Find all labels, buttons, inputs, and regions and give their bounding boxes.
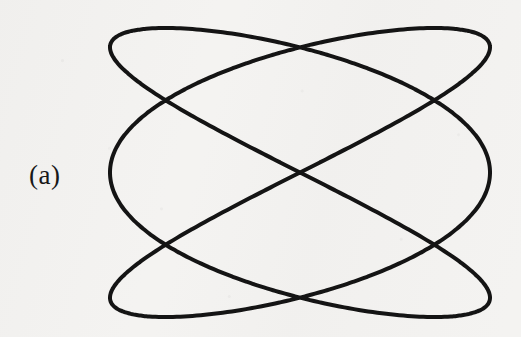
panel-label: (a) [29,162,60,189]
lissajous-curve [110,28,490,317]
figure-page: (a) [0,0,521,337]
lissajous-figure [0,0,521,337]
